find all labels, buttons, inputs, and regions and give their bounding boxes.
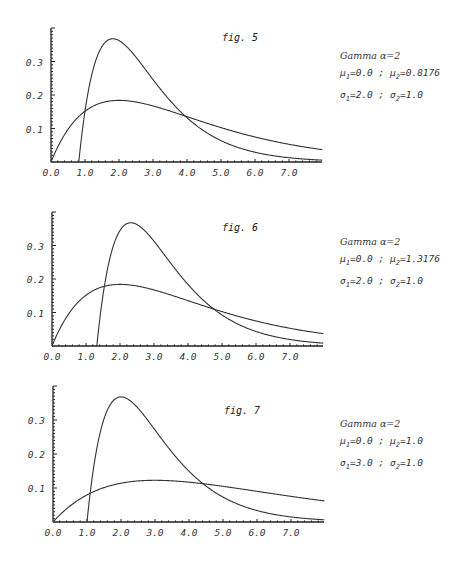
x-tick-label: 3.0 (145, 527, 163, 538)
chart-fig-7: 0.01.02.03.04.05.06.07.00.10.20.3 (0, 0, 462, 562)
x-tick-label: 6.0 (248, 527, 265, 538)
figure-7: 0.01.02.03.04.05.06.07.00.10.20.3 fig. 7… (0, 0, 462, 562)
legend: Gamma α=2 μ1=0.0 ; μ2=1.0 σ1=3.0 ; σ2=1.… (340, 415, 423, 476)
figure-label: fig. 7 (224, 405, 260, 416)
x-tick-label: 7.0 (282, 527, 299, 538)
y-tick-label: 0.1 (28, 483, 45, 494)
x-tick-label: 1.0 (78, 527, 95, 538)
x-tick-label: 2.0 (112, 527, 129, 538)
x-tick-label: 4.0 (180, 527, 197, 538)
y-tick-label: 0.2 (28, 449, 45, 460)
legend-title: Gamma α=2 (340, 415, 423, 432)
y-tick-label: 0.3 (28, 415, 45, 426)
x-tick-label: 5.0 (214, 527, 231, 538)
x-tick-label: 0.0 (44, 527, 61, 538)
curve-series-2 (87, 397, 324, 522)
legend-sigma-line: σ1=3.0 ; σ2=1.0 (340, 454, 423, 476)
legend-mu-line: μ1=0.0 ; μ2=1.0 (340, 432, 423, 454)
